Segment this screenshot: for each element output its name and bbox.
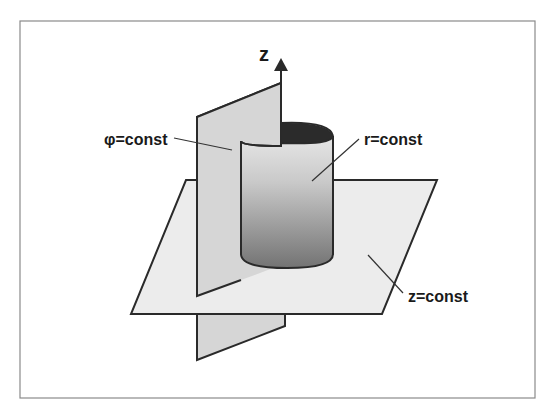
phi-const-label: φ=const xyxy=(104,131,168,148)
z-axis-label: z xyxy=(259,43,269,65)
cylinder-body xyxy=(241,136,333,268)
r-const-label: r=const xyxy=(364,131,423,148)
z-const-label: z=const xyxy=(408,288,469,305)
cylindrical-coordinates-diagram: z φ=const r=const z=const xyxy=(0,0,549,408)
